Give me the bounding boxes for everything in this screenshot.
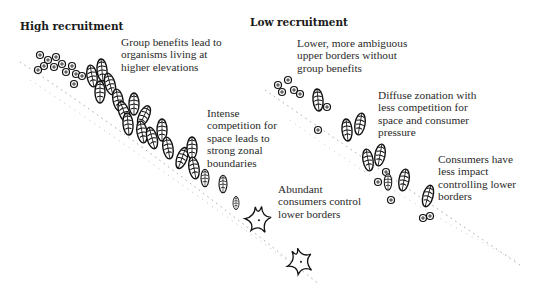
annotation-ambiguous-upper-borders: Lower, more ambiguous upper borders with…	[297, 37, 407, 74]
low-recruitment-heading: Low recruitment	[250, 16, 348, 28]
annotation-intense-competition: Intense competition for space leads to s…	[207, 107, 277, 169]
annotation-abundant-consumers: Abundant consumers control lower borders	[278, 183, 361, 220]
annotation-group-benefits: Group benefits lead to organisms living …	[121, 36, 222, 73]
recruitment-zonation-diagram: High recruitment Low recruitment Group b…	[0, 0, 537, 297]
high-recruitment-heading: High recruitment	[20, 20, 123, 32]
annotation-consumers-less-impact: Consumers have less impact controlling l…	[438, 153, 516, 203]
annotation-diffuse-zonation: Diffuse zonation with less competition f…	[378, 89, 476, 139]
barnacle-icon-cluster-high	[35, 52, 86, 88]
high-shore-substrate	[20, 62, 320, 285]
